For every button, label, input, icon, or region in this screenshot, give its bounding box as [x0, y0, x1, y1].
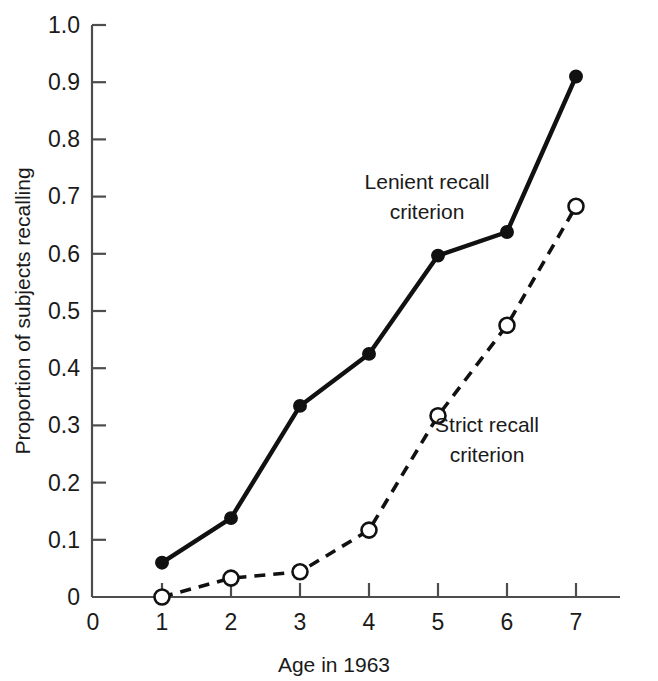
strict-annotation: Strict recall criterion	[435, 413, 539, 466]
y-tick-label: 0.3	[48, 412, 80, 438]
data-point-marker	[224, 571, 239, 586]
data-point-marker	[293, 564, 308, 579]
data-point-marker	[294, 400, 306, 412]
x-tick-label: 6	[501, 609, 514, 635]
strict-annotation-line1: Strict recall	[435, 413, 539, 436]
lenient-annotation-line1: Lenient recall	[365, 170, 490, 193]
series-strict-recall-criterion	[155, 199, 584, 605]
data-point-marker	[570, 70, 582, 82]
y-tick-label: 0.2	[48, 470, 80, 496]
x-tick-label: 3	[294, 609, 307, 635]
y-tick-marks	[92, 25, 106, 540]
series-lenient-recall-criterion	[156, 70, 582, 569]
y-tick-label: 1.0	[48, 12, 80, 38]
x-tick-label: 1	[156, 609, 169, 635]
y-axis-title: Proportion of subjects recalling	[11, 167, 34, 454]
x-axis-title: Age in 1963	[278, 653, 390, 676]
lenient-series-line	[162, 77, 576, 563]
y-tick-label: 0.9	[48, 69, 80, 95]
data-point-marker	[225, 512, 237, 524]
data-point-marker	[569, 199, 584, 214]
y-tick-label: 0	[67, 584, 80, 610]
lenient-annotation-line2: criterion	[390, 200, 465, 223]
y-tick-label: 0.4	[48, 355, 80, 381]
line-chart: 1.0 0.9 0.8 0.7 0.6 0.5 0.4 0.3 0.2 0.1 …	[0, 0, 658, 681]
x-tick-label: 5	[432, 609, 445, 635]
lenient-annotation: Lenient recall criterion	[365, 170, 490, 223]
strict-annotation-line2: criterion	[450, 443, 525, 466]
x-tick-label: 4	[363, 609, 376, 635]
chart-container: 1.0 0.9 0.8 0.7 0.6 0.5 0.4 0.3 0.2 0.1 …	[0, 0, 658, 681]
data-point-marker	[501, 226, 513, 238]
y-tick-label: 0.5	[48, 298, 80, 324]
y-tick-label: 0.1	[48, 527, 80, 553]
x-tick-label: 2	[225, 609, 238, 635]
data-point-marker	[155, 590, 170, 605]
y-tick-labels: 1.0 0.9 0.8 0.7 0.6 0.5 0.4 0.3 0.2 0.1 …	[48, 12, 80, 610]
y-tick-label: 0.8	[48, 126, 80, 152]
data-point-marker	[362, 523, 377, 538]
data-point-marker	[432, 249, 444, 261]
data-point-marker	[500, 318, 515, 333]
x-tick-marks	[162, 583, 576, 597]
y-tick-label: 0.7	[48, 183, 80, 209]
x-tick-label: 7	[570, 609, 583, 635]
data-point-marker	[363, 348, 375, 360]
y-tick-label: 0.6	[48, 241, 80, 267]
x-tick-label: 0	[87, 609, 100, 635]
data-point-marker	[156, 557, 168, 569]
x-tick-labels: 0 1 2 3 4 5 6 7	[87, 609, 583, 635]
